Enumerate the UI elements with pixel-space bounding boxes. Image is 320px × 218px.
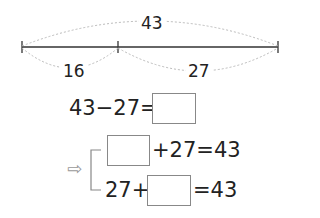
answer-box-3[interactable] [147,175,191,206]
equation-3-right: =43 [193,180,237,201]
equation-2-right: +27=43 [152,140,241,161]
total-label: 43 [139,15,165,32]
equation-1-left: 43−27= [69,98,158,119]
answer-box-2[interactable] [107,135,150,166]
answer-box-1[interactable] [152,93,196,124]
arrow-icon: ⇨ [67,160,82,178]
left-part-label: 16 [61,63,87,80]
equation-3-left: 27+ [105,180,149,201]
right-part-label: 27 [186,63,212,80]
